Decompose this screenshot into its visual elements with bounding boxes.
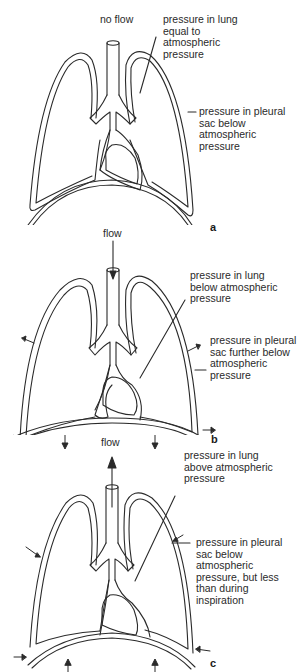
right-lung-icon: [124, 493, 193, 653]
lung-diagram-b: [0, 225, 303, 435]
lung-pressure-label-c: pressure in lung above atmospheric press…: [184, 450, 273, 485]
expansion-arrows-icon: [10, 336, 215, 435]
diaphragm-icon: [18, 418, 198, 435]
pleural-pressure-label-b: pressure in pleural sac further below at…: [210, 335, 296, 381]
flow-arrow-down-icon: [110, 241, 116, 279]
heart-icon: [100, 580, 150, 637]
pleural-pressure-label-a: pressure in pleural sac below atmospheri…: [199, 106, 285, 152]
panel-c-expiration: flow pressure in lung above atmospheric …: [0, 435, 303, 672]
pleural-pressure-label-c: pressure in pleural sac below atmospheri…: [196, 537, 282, 606]
left-lung-icon: [30, 495, 100, 647]
panel-b-inspiration: flow pressure in lung below atmospheric …: [0, 225, 303, 435]
diaphragm-icon: [28, 180, 192, 225]
flow-label-c: flow: [101, 437, 120, 449]
flow-label-b: flow: [103, 228, 122, 240]
lung-pressure-label-b: pressure in lung below atmospheric press…: [190, 270, 278, 305]
right-lung-icon: [126, 52, 194, 216]
lung-pointer-line: [140, 300, 185, 378]
heart-icon: [95, 365, 141, 420]
left-lung-icon: [20, 279, 97, 435]
flow-arrow-up-icon: [108, 457, 116, 507]
panel-a-no-flow: no flow pressure in lung equal to atmosp…: [0, 0, 303, 225]
panel-label-c: c: [210, 657, 216, 669]
flow-label-a: no flow: [100, 14, 133, 26]
lung-pressure-label-a: pressure in lung equal to atmospheric pr…: [163, 14, 238, 60]
